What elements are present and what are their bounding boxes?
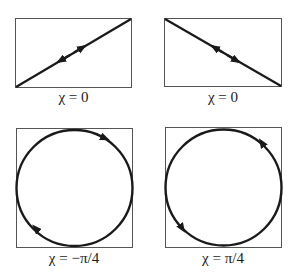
- arrow-up-right-icon: [74, 46, 85, 53]
- arrow-down-left-icon: [58, 55, 70, 62]
- arrow-down-right-icon: [227, 55, 239, 62]
- panel-bottom-left: [17, 129, 133, 248]
- panel-top-left: [16, 19, 132, 88]
- polarization-line: [16, 19, 131, 87]
- panel-label-bottom-left: χ = −π/4: [48, 250, 100, 266]
- arrow-up-left-icon: [212, 46, 223, 53]
- panel-label-bottom-right: χ = π/4: [201, 250, 244, 266]
- panel-label-top-left: χ = 0: [57, 89, 88, 105]
- panel-bottom-right: [166, 128, 282, 248]
- polarization-diagram: χ = 0 χ = 0 χ = −π/4 χ = π/4: [0, 0, 297, 274]
- panel-label-top-right: χ = 0: [207, 89, 238, 105]
- polarization-circle: [17, 130, 133, 246]
- polarization-circle: [166, 130, 282, 246]
- panel-top-right: [165, 19, 282, 87]
